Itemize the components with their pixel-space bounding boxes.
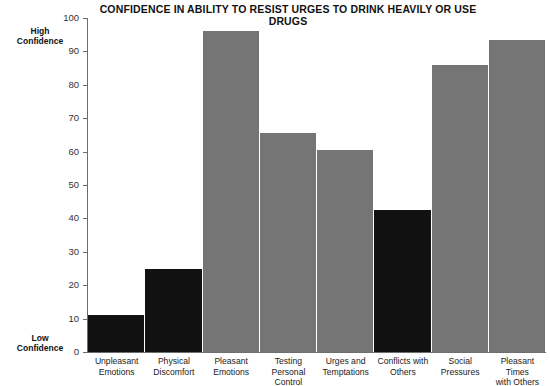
y-axis-annotation-low-line1: Low [0, 333, 80, 343]
bar[interactable] [203, 31, 259, 352]
x-axis-category-label-line1: Pleasant [203, 356, 260, 367]
x-axis-category-label-line2: Temptations [317, 367, 374, 378]
bar[interactable] [432, 65, 488, 352]
y-axis-tick-label: 10 [52, 314, 79, 323]
x-axis-category-label-line2: Others [374, 367, 431, 378]
x-axis-category-label-line1: Conflicts with [374, 356, 431, 367]
x-axis-category-label-line1: Pleasant Times [489, 356, 546, 377]
bar-slot [374, 18, 431, 352]
y-axis-annotation-high: High Confidence [0, 26, 80, 46]
x-axis-category-label-line1: Urges and [317, 356, 374, 367]
y-axis-tick-label: 0 [52, 347, 79, 356]
x-axis-category-label-line2: Control [260, 377, 317, 386]
y-axis-tick-label: 90 [52, 46, 79, 55]
bar-slot [145, 18, 202, 352]
x-axis-category-label-line1: Unpleasant [88, 356, 145, 367]
x-axis-category-label: PhysicalDiscomfort [145, 356, 202, 377]
x-axis-category-label: Social Pressures [432, 356, 489, 377]
x-axis-category-label: Conflicts withOthers [374, 356, 431, 377]
bar[interactable] [260, 133, 316, 352]
y-axis-tick-label: 30 [52, 247, 79, 256]
bar-slot [489, 18, 546, 352]
x-axis-category-label: Pleasant Timeswith Others [489, 356, 546, 386]
bar[interactable] [317, 150, 373, 352]
bar[interactable] [489, 40, 545, 352]
y-axis-tick-label: 80 [52, 80, 79, 89]
x-axis-category-label-line1: Physical [145, 356, 202, 367]
plot-area [88, 18, 546, 352]
bar[interactable] [88, 315, 144, 352]
y-axis-tick-label: 100 [52, 13, 79, 22]
y-axis-tick-label: 20 [52, 280, 79, 289]
y-axis-tick-label: 40 [52, 213, 79, 222]
bar[interactable] [145, 269, 201, 353]
x-axis-line [87, 352, 546, 353]
x-axis-category-label-line1: Testing Personal [260, 356, 317, 377]
x-axis-category-label: PleasantEmotions [203, 356, 260, 377]
x-axis-category-label: Testing PersonalControl [260, 356, 317, 386]
bar-slot [432, 18, 489, 352]
bar-slot [88, 18, 145, 352]
x-axis-category-label-line2: Discomfort [145, 367, 202, 378]
y-axis-tick-label: 70 [52, 113, 79, 122]
y-axis-tick [83, 352, 88, 353]
x-axis-category-label-line2: Emotions [88, 367, 145, 378]
x-axis-category-label: UnpleasantEmotions [88, 356, 145, 377]
bar-slot [317, 18, 374, 352]
x-axis-category-labels: UnpleasantEmotionsPhysicalDiscomfortPlea… [88, 356, 546, 384]
y-axis-annotation-high-line1: High [0, 26, 80, 36]
x-axis-category-label-line1: Social Pressures [432, 356, 489, 377]
bar[interactable] [374, 210, 430, 352]
bar-chart-figure: CONFIDENCE IN ABILITY TO RESIST URGES TO… [0, 0, 550, 386]
bar-slot [203, 18, 260, 352]
y-axis-tick-label: 60 [52, 147, 79, 156]
x-axis-category-label-line2: with Others [489, 377, 546, 386]
bar-slot [260, 18, 317, 352]
y-axis-tick-label: 50 [52, 180, 79, 189]
x-axis-category-label: Urges andTemptations [317, 356, 374, 377]
x-axis-category-label-line2: Emotions [203, 367, 260, 378]
